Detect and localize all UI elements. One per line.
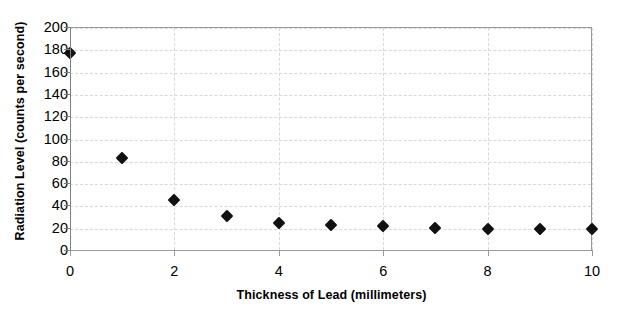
gridline-vertical [592,28,593,250]
x-tick-mark [383,250,384,256]
radiation-vs-lead-thickness-chart: Radiation Level (counts per second) 0204… [0,0,626,324]
y-tick-mark [64,205,71,206]
y-tick-mark [64,183,71,184]
x-tick-mark [488,250,489,256]
data-point [220,210,233,223]
x-tick-mark [174,250,175,256]
data-point [325,219,338,232]
gridline-horizontal [70,95,591,96]
x-tick-label: 0 [50,262,90,280]
data-point [272,217,285,230]
x-tick-label: 4 [259,262,299,280]
data-point [533,222,546,235]
y-axis-title: Radiation Level (counts per second) [0,0,40,262]
x-axis-title: Thickness of Lead (millimeters) [70,288,593,302]
y-tick-mark [64,72,71,73]
y-tick-mark [64,228,71,229]
y-tick-mark [64,49,71,50]
x-axis-title-label: Thickness of Lead (millimeters) [237,288,427,302]
gridline-horizontal [70,162,591,163]
y-axis-title-label: Radiation Level (counts per second) [13,22,27,241]
x-tick-label: 10 [572,262,612,280]
data-point [586,222,599,235]
gridline-vertical [488,28,489,250]
gridline-horizontal [70,206,591,207]
x-tick-label: 2 [154,262,194,280]
gridline-horizontal [70,117,591,118]
data-point [481,222,494,235]
y-tick-mark [64,116,71,117]
data-point [116,152,129,165]
y-tick-mark [64,27,71,28]
gridline-horizontal [70,28,591,29]
y-tick-mark [64,94,71,95]
x-tick-label: 8 [468,262,508,280]
y-tick-mark [64,139,71,140]
data-point [429,221,442,234]
x-tick-label: 6 [363,262,403,280]
gridline-vertical [383,28,384,250]
x-tick-mark [279,250,280,256]
gridline-horizontal [70,50,591,51]
data-point [377,220,390,233]
gridline-horizontal [70,184,591,185]
x-tick-mark [592,250,593,256]
x-axis-line [70,250,593,251]
y-axis-tick-labels: 020406080100120140160180200 [36,20,68,246]
data-point [168,193,181,206]
x-axis-tick-labels: 0246810 [0,262,626,284]
gridline-horizontal [70,140,591,141]
gridline-vertical [174,28,175,250]
gridline-horizontal [70,73,591,74]
x-tick-mark [70,250,71,256]
y-tick-mark [64,161,71,162]
plot-area [70,27,592,250]
